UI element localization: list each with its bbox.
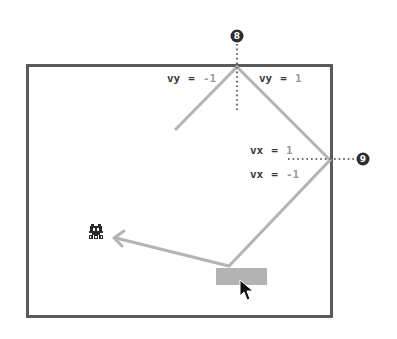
badge-number: 9 (360, 154, 366, 164)
label-value: 1 (295, 72, 302, 85)
label-vy-before: vy=-1 (167, 72, 216, 85)
label-key: vx (250, 144, 264, 157)
label-eq: = (271, 168, 278, 181)
label-key: vy (259, 72, 273, 85)
label-vx-after: vx=-1 (250, 168, 299, 181)
label-eq: = (271, 144, 278, 157)
label-value: -1 (203, 72, 217, 85)
bounce-diagram: 8 9 vy=-1 vy=1 vx=1 vx=-1 (0, 0, 397, 339)
label-value: 1 (286, 144, 293, 157)
label-eq: = (280, 72, 287, 85)
space-invader-alien-icon (89, 224, 103, 239)
game-frame (28, 66, 332, 317)
label-vx-before: vx=1 (250, 144, 293, 157)
label-vy-after: vy=1 (259, 72, 302, 85)
label-value: -1 (286, 168, 300, 181)
badge-number: 8 (234, 31, 240, 41)
label-key: vx (250, 168, 264, 181)
label-eq: = (188, 72, 195, 85)
badge-right-wall: 9 (357, 153, 370, 166)
badge-top-wall: 8 (231, 30, 244, 43)
label-key: vy (167, 72, 181, 85)
